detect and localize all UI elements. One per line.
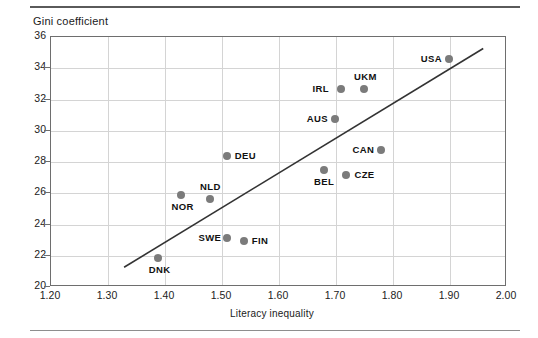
data-point-irl[interactable] [337, 85, 345, 93]
gridline-horizontal [51, 225, 505, 226]
data-point-label-usa: USA [421, 53, 442, 64]
data-point-can[interactable] [377, 146, 385, 154]
data-point-label-irl: IRL [313, 83, 330, 94]
x-tick-label: 1.30 [87, 289, 127, 301]
y-tick-mark [44, 286, 50, 287]
y-tick-label: 30 [22, 123, 46, 135]
x-tick-label: 1.40 [144, 289, 184, 301]
data-point-nld[interactable] [206, 195, 214, 203]
gridline-vertical [165, 37, 166, 285]
bottom-divider-rule [30, 330, 520, 331]
data-point-label-cze: CZE [354, 169, 374, 180]
x-axis-title: Literacy inequality [230, 308, 314, 319]
data-point-label-dnk: DNK [149, 264, 171, 275]
data-point-label-bel: BEL [314, 176, 334, 187]
y-tick-mark [44, 192, 50, 193]
gridline-vertical [336, 37, 337, 285]
gridline-horizontal [51, 162, 505, 163]
gridline-vertical [393, 37, 394, 285]
gridline-vertical [222, 37, 223, 285]
data-point-swe[interactable] [223, 234, 231, 242]
x-tick-label: 1.50 [201, 289, 241, 301]
data-point-label-nld: NLD [200, 181, 221, 192]
data-point-label-fin: FIN [252, 235, 269, 246]
data-point-label-aus: AUS [307, 113, 328, 124]
data-point-label-ukm: UKM [354, 71, 377, 82]
gridline-horizontal [51, 131, 505, 132]
y-tick-mark [44, 99, 50, 100]
gridline-horizontal [51, 100, 505, 101]
y-tick-label: 28 [22, 154, 46, 166]
scatter-chart-figure: Gini coefficient 202224262830323436 1.20… [0, 0, 538, 338]
y-tick-label: 36 [22, 29, 46, 41]
data-point-ukm[interactable] [360, 85, 368, 93]
y-tick-mark [44, 224, 50, 225]
y-tick-label: 26 [22, 185, 46, 197]
gridline-horizontal [51, 68, 505, 69]
y-tick-label: 22 [22, 248, 46, 260]
y-tick-mark [44, 255, 50, 256]
data-point-deu[interactable] [223, 152, 231, 160]
x-tick-label: 1.80 [372, 289, 412, 301]
data-point-label-can: CAN [352, 144, 374, 155]
y-tick-label: 34 [22, 60, 46, 72]
gridline-horizontal [51, 256, 505, 257]
data-point-fin[interactable] [240, 237, 248, 245]
data-point-bel[interactable] [320, 166, 328, 174]
x-tick-label: 2.00 [486, 289, 526, 301]
x-tick-label: 1.20 [30, 289, 70, 301]
plot-area [50, 36, 506, 286]
x-tick-label: 1.60 [258, 289, 298, 301]
x-tick-label: 1.90 [429, 289, 469, 301]
gridline-vertical [279, 37, 280, 285]
data-point-label-swe: SWE [199, 232, 222, 243]
gridline-vertical [450, 37, 451, 285]
x-tick-label: 1.70 [315, 289, 355, 301]
y-tick-mark [44, 130, 50, 131]
y-tick-mark [44, 67, 50, 68]
y-tick-mark [44, 161, 50, 162]
data-point-label-nor: NOR [172, 201, 194, 212]
y-tick-label: 32 [22, 92, 46, 104]
gridline-horizontal [51, 193, 505, 194]
y-tick-label: 24 [22, 217, 46, 229]
y-axis-title: Gini coefficient [33, 15, 108, 27]
data-point-label-deu: DEU [235, 150, 256, 161]
gridline-vertical [108, 37, 109, 285]
data-point-aus[interactable] [331, 115, 339, 123]
